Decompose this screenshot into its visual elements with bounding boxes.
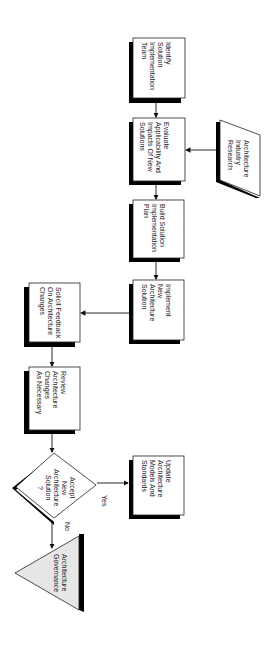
edge-label-no: No [64, 522, 71, 531]
label-research: Architecture Industry Research [226, 140, 250, 192]
edge-label-yes: Yes [101, 495, 108, 506]
label-review: Review Architecture Changes As Necessary [35, 371, 67, 429]
label-accept: Accept New Architecture Solution ? [36, 466, 76, 510]
label-update: Update Architecture Models And Standards [140, 460, 172, 514]
label-build: Build Solution Implementation Plan [142, 204, 166, 256]
label-implement: Implement New Architecture Solution [140, 284, 172, 338]
label-evaluate: Evaluate Applicability And Impacts Of Ne… [138, 122, 170, 180]
label-governance: Architecture Governance [52, 554, 68, 594]
label-solicit: Solicit Feedback On Architecture Changes [38, 287, 62, 341]
label-identify: Identify Solution Implementation Team [140, 42, 172, 96]
node-governance [15, 536, 79, 610]
